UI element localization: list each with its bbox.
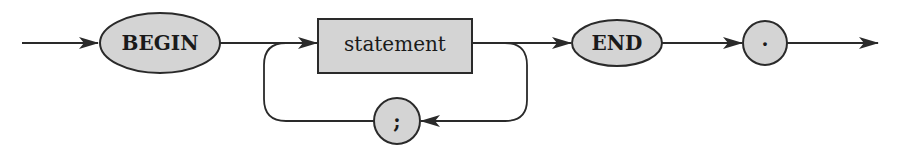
period-node: . <box>743 21 787 65</box>
semicolon-label: ; <box>393 109 400 133</box>
begin-node: BEGIN <box>100 13 220 73</box>
semicolon-node: ; <box>374 98 420 144</box>
statement-label: statement <box>344 32 446 56</box>
syntax-diagram: BEGIN statement ; END . <box>0 0 901 155</box>
end-label: END <box>592 31 643 55</box>
period-label: . <box>762 27 769 51</box>
statement-node: statement <box>318 19 472 73</box>
begin-label: BEGIN <box>122 31 199 55</box>
end-node: END <box>572 20 662 66</box>
